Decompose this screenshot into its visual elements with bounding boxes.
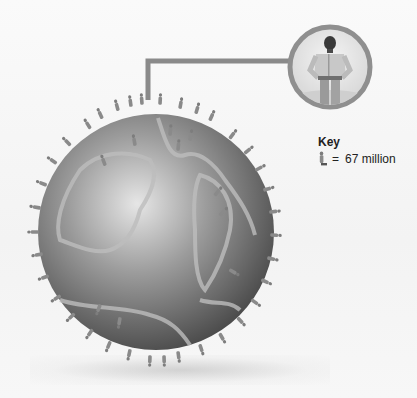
diagram-stage: Key = 67 million	[0, 0, 417, 398]
inset-magnifier	[285, 27, 375, 118]
globe-illustration	[0, 0, 417, 398]
legend-key: Key = 67 million	[318, 135, 396, 167]
connector-line	[148, 61, 290, 100]
key-title: Key	[318, 135, 396, 149]
key-row: = 67 million	[318, 151, 396, 167]
key-value: 67 million	[345, 152, 396, 166]
key-equals: =	[332, 152, 339, 166]
person-icon	[318, 151, 328, 167]
